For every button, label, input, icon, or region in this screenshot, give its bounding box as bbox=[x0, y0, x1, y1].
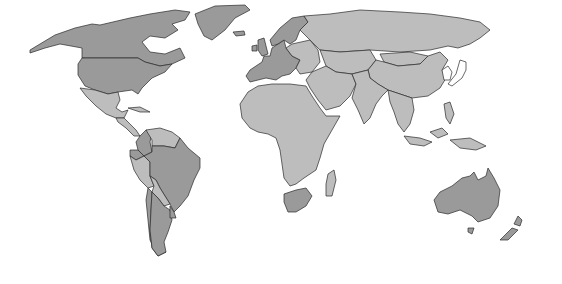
region-russia[interactable] bbox=[300, 10, 490, 52]
region-madagascar[interactable] bbox=[326, 170, 336, 196]
region-indonesia[interactable] bbox=[404, 128, 486, 150]
region-venezuela[interactable] bbox=[146, 128, 180, 148]
region-united-kingdom[interactable] bbox=[258, 38, 268, 56]
region-south-africa[interactable] bbox=[284, 188, 312, 212]
region-canada[interactable] bbox=[30, 10, 190, 66]
region-philippines[interactable] bbox=[444, 102, 454, 124]
region-cuba[interactable] bbox=[128, 107, 150, 112]
world-map bbox=[0, 0, 562, 284]
region-australia[interactable] bbox=[434, 168, 500, 222]
region-central-america[interactable] bbox=[116, 118, 140, 136]
world-map-svg bbox=[0, 0, 562, 284]
region-ireland[interactable] bbox=[252, 45, 257, 51]
region-iceland[interactable] bbox=[233, 31, 245, 36]
region-mexico[interactable] bbox=[80, 88, 128, 118]
region-new-zealand[interactable] bbox=[500, 216, 522, 240]
region-tasmania[interactable] bbox=[468, 228, 474, 234]
